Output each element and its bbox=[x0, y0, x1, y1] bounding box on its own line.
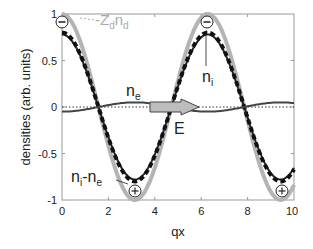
y-tick-label: 0 bbox=[51, 101, 57, 113]
minus-charge-icon bbox=[201, 16, 213, 28]
svg-text:ni: ni bbox=[202, 68, 213, 88]
x-tick-label: 4 bbox=[152, 205, 158, 217]
e-field-label: E bbox=[174, 120, 185, 137]
y-axis-label: densities (arb. units) bbox=[18, 48, 33, 165]
x-axis-label: qx bbox=[171, 224, 185, 239]
minus-charge-icon bbox=[56, 16, 68, 28]
x-tick-label: 8 bbox=[245, 205, 251, 217]
x-tick-label: 2 bbox=[105, 205, 111, 217]
x-tick-label: 6 bbox=[198, 205, 204, 217]
y-tick-label: -0.5 bbox=[38, 148, 57, 160]
x-tick-label: 10 bbox=[286, 205, 298, 217]
y-tick-label: -1 bbox=[47, 194, 57, 206]
x-tick-label: 0 bbox=[59, 205, 65, 217]
y-tick-label: 0.5 bbox=[42, 55, 57, 67]
y-tick-label: 1 bbox=[51, 8, 57, 20]
ne-annotation: ne bbox=[126, 82, 141, 102]
plus-charge-icon bbox=[276, 185, 288, 197]
svg-text:ni-ne: ni-ne bbox=[71, 168, 102, 188]
ni-annotation: ni bbox=[202, 36, 213, 88]
plus-charge-icon bbox=[129, 185, 141, 197]
chart: 1 0.5 0 -0.5 -1 0 2 4 6 8 10 qx densitie… bbox=[0, 0, 313, 249]
